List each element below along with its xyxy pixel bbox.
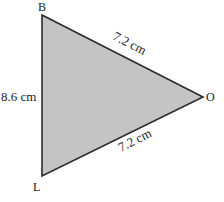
triangle-diagram: B O L 7.2 cm 8.6 cm 7.2 cm (0, 0, 224, 202)
vertex-label-o: O (206, 90, 215, 104)
side-label-bl: 8.6 cm (1, 89, 36, 104)
vertex-label-b: B (38, 0, 46, 14)
vertex-label-l: L (33, 180, 40, 194)
